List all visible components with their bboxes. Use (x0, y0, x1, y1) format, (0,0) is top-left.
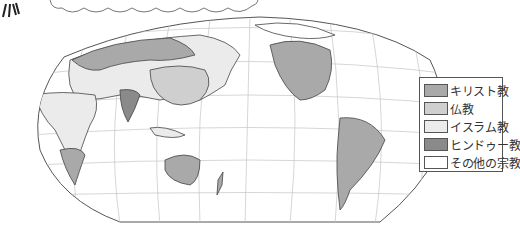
legend-label: ヒンドゥー教 (450, 136, 520, 153)
legend-item-islam: イスラム教 (424, 117, 502, 135)
legend-item-christianity: キリスト教 (424, 81, 502, 99)
map-legend: キリスト教 仏教 イスラム教 ヒンドゥー教 その他の宗教 (419, 77, 503, 172)
buddhism-swatch-icon (424, 102, 448, 115)
legend-item-hinduism: ヒンドゥー教 (424, 135, 502, 153)
islam-swatch-icon (424, 120, 448, 133)
legend-label: イスラム教 (450, 118, 509, 135)
legend-item-other: その他の宗教 (424, 153, 502, 171)
legend-item-buddhism: 仏教 (424, 99, 502, 117)
christianity-swatch-icon (424, 84, 448, 97)
legend-label: その他の宗教 (450, 154, 520, 171)
legend-label: 仏教 (450, 100, 473, 117)
character-icon (3, 3, 19, 17)
speech-cloud (50, 0, 258, 12)
hinduism-swatch-icon (424, 138, 448, 151)
legend-label: キリスト教 (450, 82, 509, 99)
other-religion-swatch-icon (424, 156, 448, 169)
map-frame (38, 17, 444, 222)
